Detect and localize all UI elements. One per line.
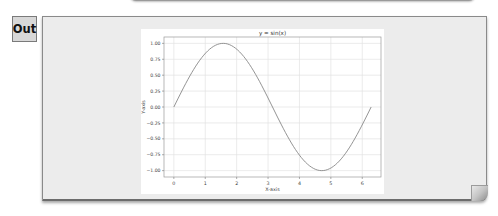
output-cell-frame: 01234561.000.750.500.250.00−0.25−0.50−0.… [42, 16, 487, 201]
y-axis-label: Y-axis [141, 100, 146, 115]
chart-figure: 01234561.000.750.500.250.00−0.25−0.50−0.… [141, 29, 384, 194]
x-tick-label: 1 [204, 181, 207, 186]
x-tick-label: 4 [298, 181, 301, 186]
sine-line-chart: 01234561.000.750.500.250.00−0.25−0.50−0.… [141, 29, 384, 194]
page-curl-icon [471, 185, 488, 201]
x-tick-label: 2 [235, 181, 238, 186]
x-axis-label: X-axis [265, 187, 280, 192]
y-tick-label: −0.25 [146, 121, 160, 126]
x-tick-label: 0 [172, 181, 175, 186]
x-tick-label: 6 [361, 181, 364, 186]
x-tick-label: 3 [267, 181, 270, 186]
chart-title: y = sin(x) [259, 30, 286, 37]
output-prompt-label: Out [12, 16, 37, 42]
y-tick-label: −0.75 [146, 152, 160, 157]
y-tick-label: −0.50 [146, 136, 160, 141]
y-tick-label: 0.25 [150, 89, 160, 94]
y-tick-label: 0.00 [150, 105, 160, 110]
previous-cell-edge [130, 0, 475, 1]
y-tick-label: 1.00 [150, 41, 160, 46]
y-tick-label: 0.75 [150, 57, 160, 62]
y-tick-label: −1.00 [146, 168, 160, 173]
y-tick-label: 0.50 [150, 73, 160, 78]
x-tick-label: 5 [329, 181, 332, 186]
